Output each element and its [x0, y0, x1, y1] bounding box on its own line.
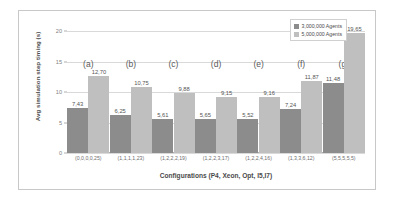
bar[interactable]: 5,65: [195, 119, 216, 153]
bar[interactable]: 19,65: [344, 33, 365, 153]
bar-slot: 11,87: [301, 31, 322, 153]
x-tick-label: (1,2,2,4,16): [237, 155, 280, 165]
x-tick-label: (1,2,2,3,17): [195, 155, 238, 165]
bars: 11,4819,65: [322, 31, 365, 153]
bars: 6,2510,75: [110, 31, 153, 153]
bar-group: (a)7,4312,70: [67, 31, 110, 153]
bar-slot: 6,25: [110, 31, 131, 153]
x-axis-title: Configurations (P4, Xeon, Opt, I5,I7): [67, 172, 365, 179]
bar-slot: 5,61: [152, 31, 173, 153]
bars: 7,2411,87: [280, 31, 323, 153]
bar-group: (c)5,619,88: [152, 31, 195, 153]
bar-group: (f)7,2411,87: [280, 31, 323, 153]
x-tick-label: (0,0,0,0,25): [67, 155, 110, 165]
y-tick-label: 5: [59, 120, 62, 126]
bar[interactable]: 9,15: [216, 97, 237, 153]
y-tick-label: 15: [56, 59, 62, 65]
bar-slot: 9,88: [173, 31, 194, 153]
bar-slot: 11,48: [322, 31, 343, 153]
bar[interactable]: 5,61: [152, 119, 173, 153]
legend-item: 3,000,000 Agents: [294, 22, 342, 30]
legend-swatch-icon: [294, 32, 299, 37]
y-tick-label: 10: [56, 89, 62, 95]
legend: 3,000,000 Agents 5,000,000 Agents: [290, 19, 347, 41]
bars: 5,659,15: [195, 31, 238, 153]
bar[interactable]: 11,48: [323, 83, 344, 153]
bar-slot: 12,70: [88, 31, 109, 153]
bar[interactable]: 6,25: [110, 115, 131, 153]
legend-label: 3,000,000 Agents: [302, 23, 342, 29]
legend-swatch-icon: [294, 24, 299, 29]
bars: 5,619,88: [152, 31, 195, 153]
y-axis-title: Avg simulation step timing (s): [34, 17, 41, 137]
bar-slot: 9,16: [259, 31, 280, 153]
bar[interactable]: 12,70: [88, 76, 109, 153]
bar-group: (g)11,4819,65: [322, 31, 365, 153]
bar[interactable]: 11,87: [301, 81, 322, 153]
bar-slot: 7,24: [280, 31, 301, 153]
bar-slot: 19,65: [344, 31, 365, 153]
x-tick-label: (1,1,1,1,23): [110, 155, 153, 165]
legend-item: 5,000,000 Agents: [294, 30, 342, 38]
bar-group: (e)5,529,16: [237, 31, 280, 153]
y-tick-label: 0: [59, 150, 62, 156]
bars: 7,4312,70: [67, 31, 110, 153]
bars: 5,529,16: [237, 31, 280, 153]
bar[interactable]: 10,75: [131, 87, 152, 153]
x-tick-label: (1,2,2,2,19): [152, 155, 195, 165]
bar-group: (d)5,659,15: [195, 31, 238, 153]
x-tick-label: (5,5,5,5,5): [322, 155, 365, 165]
bar-chart-figure: Avg simulation step timing (s) 05101520 …: [18, 10, 376, 190]
bar-slot: 7,43: [67, 31, 88, 153]
bar[interactable]: 5,52: [237, 119, 258, 153]
bar-slot: 9,15: [216, 31, 237, 153]
bar[interactable]: 7,43: [67, 108, 88, 153]
bar-groups: (a)7,4312,70(b)6,2510,75(c)5,619,88(d)5,…: [67, 31, 365, 153]
gridline: [67, 153, 365, 154]
y-tick-label: 20: [56, 28, 62, 34]
bar-slot: 10,75: [131, 31, 152, 153]
x-tick-labels: (0,0,0,0,25)(1,1,1,1,23)(1,2,2,2,19)(1,2…: [67, 155, 365, 165]
x-tick-label: (1,3,3,6,12): [280, 155, 323, 165]
legend-label: 5,000,000 Agents: [302, 31, 342, 37]
plot-area: 05101520 (a)7,4312,70(b)6,2510,75(c)5,61…: [67, 31, 365, 153]
bar-group: (b)6,2510,75: [110, 31, 153, 153]
bar[interactable]: 9,88: [174, 93, 195, 153]
bar[interactable]: 7,24: [280, 109, 301, 153]
